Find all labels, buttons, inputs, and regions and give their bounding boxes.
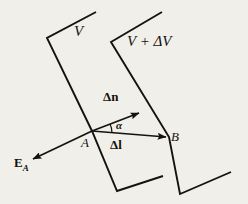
right-surface-potential-label: V + ΔV [127, 34, 171, 49]
electric-field-symbol: E [14, 155, 23, 170]
delta-l-label: Δl [110, 138, 122, 151]
delta-n-label: Δn [103, 90, 118, 103]
point-a-label: A [81, 136, 89, 149]
diagram-canvas [0, 0, 248, 204]
electric-field-subscript: A [23, 163, 29, 173]
physics-diagram-figure: V V + ΔV Δn α Δl A B EA [0, 0, 248, 204]
angle-alpha-label: α [116, 120, 122, 131]
electric-field-label: EA [14, 154, 29, 173]
point-b-label: B [171, 130, 179, 143]
left-surface-potential-label: V [74, 24, 83, 39]
delta-l-vector [92, 131, 166, 137]
